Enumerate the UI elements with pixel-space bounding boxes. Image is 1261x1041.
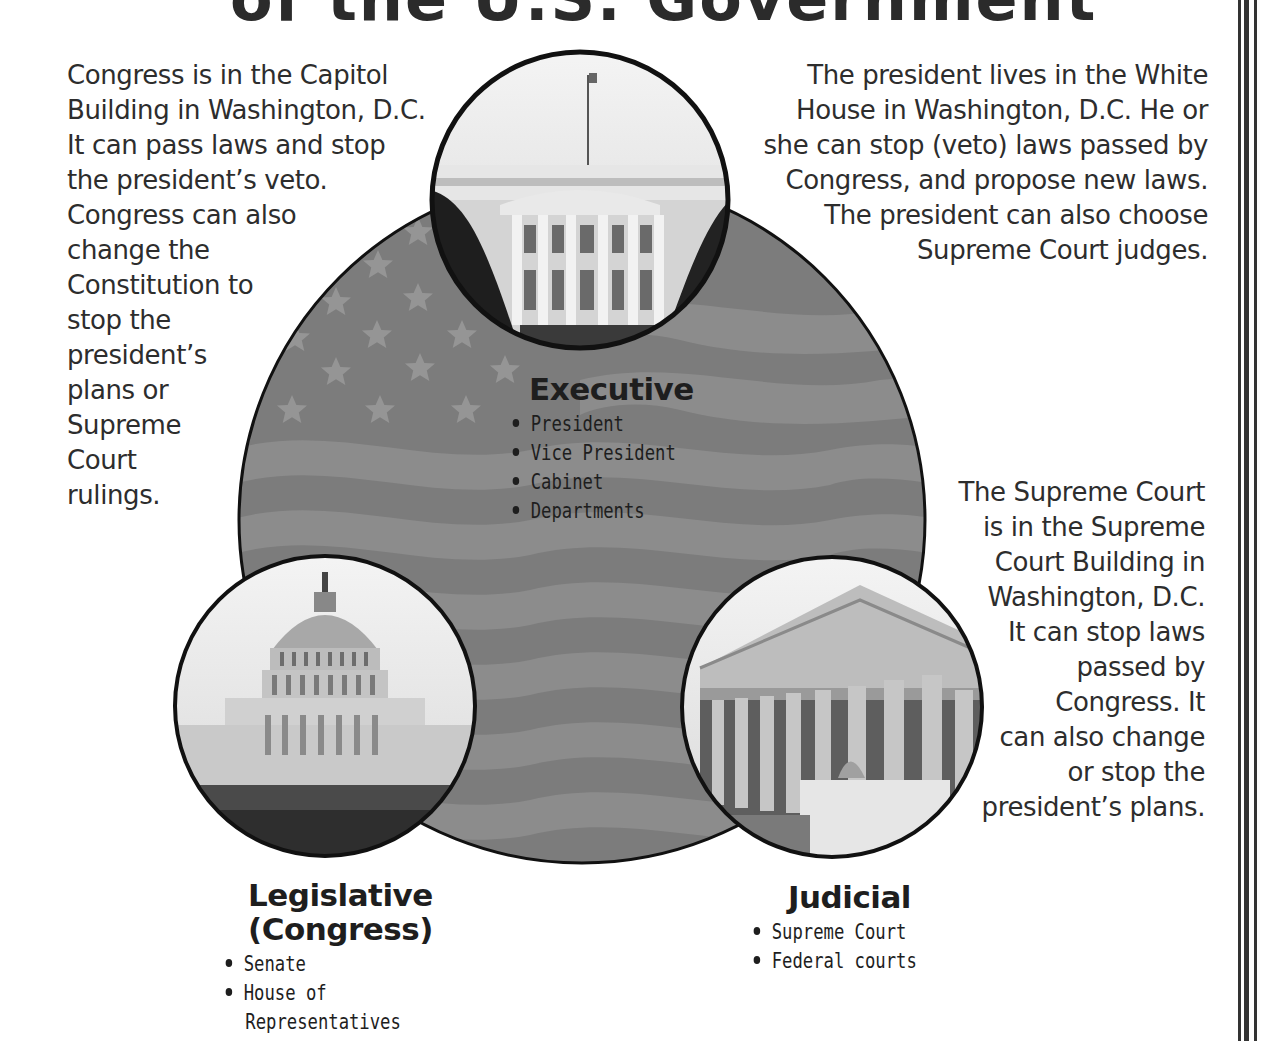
list-item: Departments — [511, 497, 676, 526]
list-item: Cabinet — [511, 468, 676, 497]
legislative-branch-label: Legislative (Congress) Senate House of R… — [224, 878, 440, 1037]
list-item-continuation: Representatives — [224, 1008, 401, 1037]
list-item: President — [511, 410, 676, 439]
executive-title: Executive — [529, 372, 712, 406]
list-item: Supreme Court — [752, 918, 917, 947]
list-item: House of — [224, 979, 401, 1008]
bullet-icon — [513, 419, 520, 427]
bullet-icon — [226, 959, 233, 967]
bullet-icon — [226, 988, 233, 996]
legislative-title: Legislative — [248, 878, 440, 912]
judicial-list: Supreme Court Federal courts — [752, 918, 953, 976]
list-item: Vice President — [511, 439, 676, 468]
bullet-icon — [754, 956, 761, 964]
bullet-icon — [513, 477, 520, 485]
bullet-icon — [513, 506, 520, 514]
president-description: The president lives in the White House i… — [763, 58, 1208, 268]
list-item: Federal courts — [752, 947, 917, 976]
bullet-icon — [754, 927, 761, 935]
bullet-icon — [513, 448, 520, 456]
list-item: Senate — [224, 950, 401, 979]
judicial-branch-label: Judicial Supreme Court Federal courts — [752, 880, 953, 976]
congress-description: Congress is in the Capitol Building in W… — [67, 58, 426, 513]
executive-branch-label: Executive President Vice President Cabin… — [511, 372, 712, 526]
legislative-subtitle: (Congress) — [248, 912, 440, 946]
judicial-title: Judicial — [788, 880, 953, 914]
legislative-list: Senate House of Representatives — [224, 950, 440, 1037]
supreme-court-description: The Supreme Court is in the Supreme Cour… — [959, 475, 1205, 825]
executive-list: President Vice President Cabinet Departm… — [511, 410, 712, 526]
